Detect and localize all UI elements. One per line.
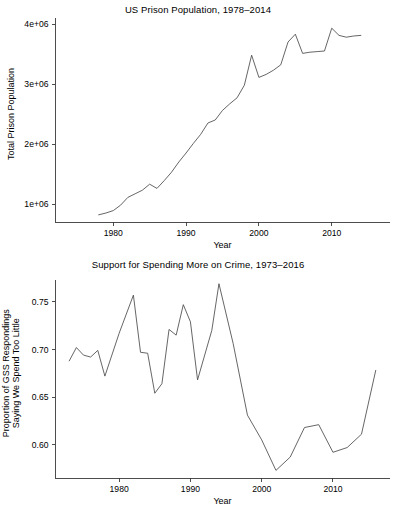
y-tick-label: 4e+06 bbox=[24, 19, 48, 29]
x-axis-title: Year bbox=[213, 496, 231, 506]
x-tick-label: 2000 bbox=[252, 484, 271, 494]
y-tick-label: 0.70 bbox=[32, 345, 49, 355]
y-tick-label: 1e+06 bbox=[24, 199, 48, 209]
chart-panel-prison-population: US Prison Population, 1978–2014 1e+062e+… bbox=[0, 0, 396, 255]
data-series-line bbox=[99, 28, 361, 215]
y-tick-label: 2e+06 bbox=[24, 139, 48, 149]
x-axis-title: Year bbox=[213, 240, 231, 250]
y-axis-title: Total Prison Population bbox=[6, 68, 16, 160]
chart-panel-crime-spending: Support for Spending More on Crime, 1973… bbox=[0, 255, 396, 511]
x-tick-label: 2000 bbox=[249, 228, 268, 238]
x-tick-label: 2010 bbox=[323, 484, 342, 494]
data-series-line bbox=[69, 284, 375, 471]
line-chart-prison-population: 1e+062e+063e+064e+061980199020002010Year… bbox=[0, 0, 396, 255]
y-tick-label: 0.60 bbox=[32, 440, 49, 450]
y-tick-label: 0.75 bbox=[32, 297, 49, 307]
figure-two-panel-line-charts: US Prison Population, 1978–2014 1e+062e+… bbox=[0, 0, 396, 511]
line-chart-crime-spending: 0.600.650.700.751980199020002010YearProp… bbox=[0, 255, 396, 511]
x-tick-label: 1990 bbox=[181, 484, 200, 494]
y-axis-title: Saying We Spend Too Little bbox=[12, 318, 22, 428]
y-axis-title: Proportion of GSS Respondings bbox=[1, 309, 11, 438]
y-tick-label: 3e+06 bbox=[24, 79, 48, 89]
y-tick-label: 0.65 bbox=[32, 392, 49, 402]
x-tick-label: 1980 bbox=[110, 484, 129, 494]
x-tick-label: 2010 bbox=[322, 228, 341, 238]
x-tick-label: 1980 bbox=[104, 228, 123, 238]
x-tick-label: 1990 bbox=[177, 228, 196, 238]
